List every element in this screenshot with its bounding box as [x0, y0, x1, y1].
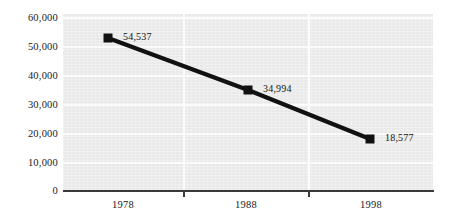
- y-axis-label-50000: 50,000: [0, 41, 58, 52]
- y-axis-label-0: 0: [0, 185, 58, 196]
- line-chart: 54,537 34,994 18,577 60,000 50,000 40,00…: [0, 0, 450, 222]
- data-point-marker-1988: [244, 86, 253, 95]
- x-axis-label-1978: 1978: [83, 199, 163, 210]
- y-axis-label-30000: 30,000: [0, 99, 58, 110]
- data-series-line: [63, 14, 433, 191]
- data-point-marker-1978: [104, 34, 113, 43]
- data-label-1988: 34,994: [263, 83, 292, 94]
- y-axis-label-60000: 60,000: [0, 12, 58, 23]
- data-label-1998: 18,577: [385, 132, 414, 143]
- plot-area: 54,537 34,994 18,577: [63, 14, 433, 191]
- x-axis-label-1988: 1988: [206, 199, 286, 210]
- y-axis-label-40000: 40,000: [0, 70, 58, 81]
- x-axis-tick-2: [308, 191, 310, 197]
- y-axis-label-10000: 10,000: [0, 157, 58, 168]
- x-axis-line: [63, 190, 434, 192]
- series-polyline: [108, 38, 370, 139]
- x-axis-label-1998: 1998: [331, 199, 411, 210]
- data-point-marker-1998: [366, 135, 375, 144]
- y-axis-label-20000: 20,000: [0, 128, 58, 139]
- data-label-1978: 54,537: [123, 31, 152, 42]
- x-axis-tick-1: [183, 191, 185, 197]
